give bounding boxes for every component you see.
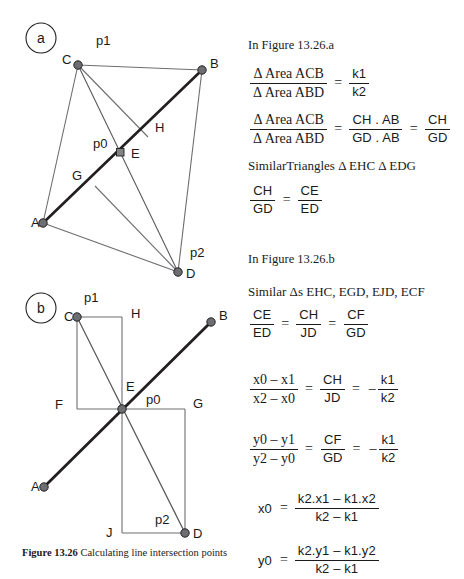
panel-a-label-A: A: [31, 215, 40, 230]
eq2-mid-numerator: CH . AB: [349, 113, 402, 130]
eq3-equals: =: [278, 192, 296, 208]
eq5-b-fraction: CH JD: [318, 373, 347, 405]
similar-triangles-b: Similar Δs EHC, EGD, EJD, ECF: [248, 284, 464, 300]
eq5-a-denominator: x2 – x0: [250, 390, 298, 407]
eq6-c-fraction: k1 k2: [377, 433, 401, 465]
edge-b-d: [178, 70, 202, 272]
eq6-equals-2: =: [348, 441, 366, 457]
panel-a-label-p0: p0: [93, 136, 107, 151]
eq2-lhs-numerator: Δ Area ACB: [250, 112, 326, 130]
line-segment-ab: [44, 322, 211, 487]
eq5-b-denominator: JD: [321, 390, 343, 406]
heading-figure-b: In Figure 13.26.b: [248, 252, 464, 267]
panel-b-label-H: H: [131, 306, 140, 321]
math-column: In Figure 13.26.a Δ Area ACB Δ Area ABD …: [248, 0, 464, 579]
panel-b-label-A: A: [31, 479, 40, 494]
panel-b-label-G: G: [193, 396, 203, 411]
equation-x0-solution: x0 = k2.x1 – k1.x2 k2 – k1: [248, 492, 464, 524]
point-d-node: [174, 268, 182, 276]
eq2-equals-2: =: [405, 121, 423, 137]
eq1-lhs-numerator: Δ Area ACB: [250, 66, 326, 84]
eq6-a-denominator: y2 – y0: [250, 450, 298, 467]
panel-a: a A B: [26, 23, 219, 281]
eq5-c-fraction: k1 k2: [376, 373, 400, 405]
panel-b-label-E: E: [126, 379, 135, 394]
eq5-equals-2: =: [347, 381, 365, 397]
panel-a-label-H: H: [155, 120, 164, 135]
equation-ch-gd-ce-ed: CH GD = CE ED: [248, 184, 464, 216]
eq4-b-denominator: JD: [298, 325, 320, 341]
panel-a-badge-label: a: [37, 30, 45, 46]
eq1-lhs-denominator: Δ Area ABD: [250, 84, 327, 101]
eq2-mid-denominator: GD . AB: [349, 130, 403, 146]
eq7-equals: =: [275, 500, 293, 516]
eq8-lhs: y0: [258, 553, 275, 568]
eq2-lhs-denominator: Δ Area ABD: [250, 130, 327, 147]
equation-ce-ed-ch-jd-cf-gd: CE ED = CH JD = CF GD: [248, 308, 464, 340]
equation-y0-solution: y0 = k2.y1 – k1.y2 k2 – k1: [248, 544, 464, 576]
eq2-equals-1: =: [329, 121, 347, 137]
point-b-node: [207, 318, 215, 326]
eq2-lhs-fraction: Δ Area ACB Δ Area ABD: [248, 112, 329, 146]
eq5-a-fraction: x0 – x1 x2 – x0: [248, 372, 300, 406]
line-segment-ab: [43, 70, 202, 223]
eq5-minus: –: [365, 381, 376, 397]
eq8-fraction: k2.y1 – k1.y2 k2 – k1: [293, 544, 381, 576]
eq6-b-fraction: CF GD: [318, 433, 348, 465]
point-b-node: [198, 66, 206, 74]
eq3-rhs-fraction: CE ED: [296, 184, 324, 216]
eq5-a-numerator: x0 – x1: [250, 372, 298, 390]
line-segment-cd: [77, 317, 185, 533]
panel-a-label-C: C: [62, 52, 71, 67]
panel-a-label-B: B: [210, 56, 219, 71]
point-a-node: [39, 219, 47, 227]
panel-a-label-G: G: [72, 168, 82, 183]
panel-a-label-p1: p1: [96, 33, 110, 48]
eq7-numerator: k2.x1 – k1.x2: [295, 492, 379, 509]
panel-b-badge-label: b: [37, 300, 45, 316]
eq5-c-numerator: k1: [378, 373, 398, 390]
eq2-mid-fraction: CH . AB GD . AB: [347, 113, 405, 145]
panel-b-label-D: D: [193, 526, 202, 541]
point-c-node: [74, 61, 82, 69]
eq2-rhs-fraction: CH GD: [423, 113, 453, 145]
panel-b-label-p2: p2: [155, 512, 169, 527]
eq2-rhs-numerator: CH: [425, 113, 450, 130]
panel-b-label-B: B: [219, 308, 228, 323]
eq4-equals-1: =: [276, 316, 294, 332]
eq6-a-fraction: y0 – y1 y2 – y0: [248, 432, 300, 466]
eq1-equals: =: [329, 75, 347, 91]
edge-d-g: [95, 186, 178, 272]
eq3-rhs-numerator: CE: [298, 184, 322, 201]
panel-b-label-J: J: [106, 525, 113, 540]
eq4-equals-2: =: [323, 316, 341, 332]
equation-x-ratio: x0 – x1 x2 – x0 = CH JD = – k1 k2: [248, 372, 464, 406]
eq3-lhs-denominator: GD: [250, 201, 276, 217]
eq4-c-fraction: CF GD: [341, 308, 371, 340]
edge-c-a: [43, 65, 78, 223]
eq5-equals-1: =: [300, 381, 318, 397]
eq4-b-numerator: CH: [296, 308, 321, 325]
eq6-b-denominator: GD: [320, 450, 346, 466]
point-e-node: [117, 149, 125, 157]
point-d-node: [181, 529, 189, 537]
figure-caption-label: Figure 13.26: [22, 547, 78, 558]
eq6-c-denominator: k2: [379, 450, 399, 466]
panel-a-label-E: E: [131, 146, 140, 161]
eq5-b-numerator: CH: [320, 373, 345, 390]
eq1-lhs-fraction: Δ Area ACB Δ Area ABD: [248, 66, 329, 100]
eq4-c-numerator: CF: [344, 308, 368, 325]
eq3-lhs-fraction: CH GD: [248, 184, 278, 216]
equation-area-ratio-ch-gd: Δ Area ACB Δ Area ABD = CH . AB GD . AB …: [248, 112, 464, 146]
figure-caption: Figure 13.26 Calculating line intersecti…: [22, 546, 252, 559]
eq6-c-numerator: k1: [379, 433, 399, 450]
geometry-diagram: a A B: [0, 0, 245, 545]
point-a-node: [40, 483, 48, 491]
eq4-b-fraction: CH JD: [294, 308, 323, 340]
point-c-node: [73, 313, 81, 321]
eq8-denominator: k2 – k1: [312, 561, 361, 577]
similar-triangles-a: SimilarTriangles Δ EHC Δ EDG: [248, 158, 464, 174]
panel-a-label-p2: p2: [190, 245, 204, 260]
eq6-b-numerator: CF: [321, 433, 345, 450]
eq3-lhs-numerator: CH: [250, 184, 275, 201]
